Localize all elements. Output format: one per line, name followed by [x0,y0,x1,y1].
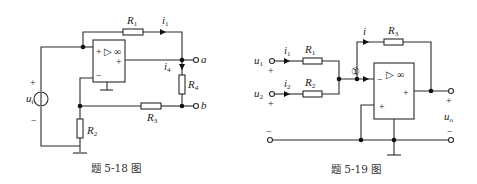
junction-dot [337,77,342,82]
label-uo: uo [444,110,454,124]
uo-plus-label: + [446,95,452,106]
label-ui: ui [26,92,34,106]
resistor-r4 [179,75,185,94]
u2-plus-label: + [268,98,274,109]
label-terminal-a: a [201,53,207,65]
caption-5-18: 题 5-18 图 [91,162,141,174]
current-arrow-icon [179,64,185,70]
label-r1: R1 [304,43,316,57]
label-terminal-b: b [201,99,207,111]
opamp-5-19: − ▷ ∞ + + [374,63,414,119]
terminal-ground-left [268,138,273,143]
label-u2: u2 [254,87,264,101]
resistor-r2 [303,91,322,97]
label-r3: R3 [387,24,399,38]
label-r2: R2 [86,124,98,138]
junction-dot [81,45,86,50]
junction-dot [78,104,83,109]
current-arrow-icon [363,39,369,45]
label-i1: i1 [284,44,291,58]
opamp-5-18: + ▷ ∞ + − [93,40,125,82]
current-arrow-icon [160,29,166,35]
junction-dot [355,77,360,82]
opamp-minus-in-label: − [377,74,383,85]
junction-dot [429,89,434,94]
figure-5-19: − ▷ ∞ + + u1 + u2 + i1 i2 R1 [254,24,454,175]
opamp-output-plus-label: + [116,56,122,67]
opamp-infinity-label: ∞ [397,69,404,80]
resistor-r1 [303,58,322,64]
node-1-marker: ① [351,66,360,77]
figure-5-18: + ▷ ∞ + − R1 i1 i4 R4 R3 R2 [26,14,207,174]
opamp-triangle-icon: ▷ [386,69,394,80]
resistor-r3 [141,103,161,109]
junction-dot [392,138,397,143]
label-i1: i1 [162,14,169,28]
terminal-b [194,104,199,109]
opamp-plus-in-label: + [379,101,385,112]
current-arrow-icon [284,91,290,97]
junction-dot [180,58,185,63]
label-i2: i2 [284,77,291,91]
label-i4: i4 [164,60,171,74]
current-arrow-icon [284,58,290,64]
voltage-source-icon [34,92,48,106]
terminal-a [194,58,199,63]
junction-dot [359,138,364,143]
junction-dot [180,104,185,109]
label-r3: R3 [146,111,158,125]
caption-5-19: 题 5-19 图 [331,163,381,175]
ground-left-minus-label: − [266,126,272,137]
resistor-r2 [77,119,83,138]
opamp-minus-in-label: − [96,70,102,81]
uo-minus-label: − [447,126,453,137]
resistor-r3 [384,39,403,45]
source-minus-label: − [31,115,37,126]
opamp-output-plus-label: + [403,87,409,98]
u1-plus-label: + [268,65,274,76]
terminal-u1 [270,59,275,64]
label-i: i [363,25,366,37]
terminal-uo [449,89,454,94]
label-r1: R1 [126,14,138,28]
label-r2: R2 [304,76,316,90]
terminal-u2 [270,92,275,97]
opamp-triangle-icon: ▷ [104,46,112,57]
terminal-ground-right [449,138,454,143]
label-r4: R4 [187,78,199,92]
source-plus-label: + [30,77,36,88]
current-arrow-icon [363,76,369,82]
label-u1: u1 [254,54,264,68]
resistor-r1 [123,29,143,35]
opamp-plus-in-label: + [96,46,102,57]
